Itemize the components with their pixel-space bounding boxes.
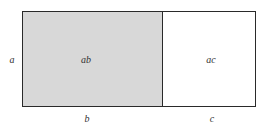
region-label-ab: ab: [81, 55, 91, 65]
region-ab-shaded: [23, 12, 163, 106]
side-label-a: a: [10, 55, 15, 65]
bottom-label-b: b: [85, 114, 90, 124]
region-label-ac: ac: [206, 55, 215, 65]
bottom-label-c: c: [210, 114, 214, 124]
outer-rectangle: [22, 11, 256, 107]
area-model-diagram: a ab ac b c: [0, 0, 266, 130]
